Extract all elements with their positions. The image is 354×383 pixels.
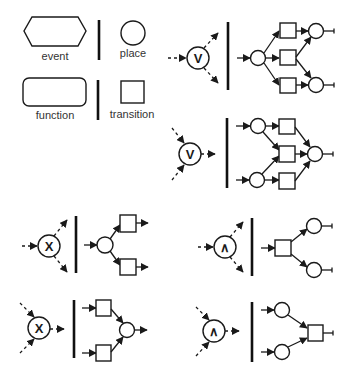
arrow	[295, 127, 310, 147]
arrow	[263, 132, 279, 150]
arrow	[296, 37, 311, 57]
arrow	[288, 338, 307, 347]
transition-icon	[308, 325, 323, 341]
event-label: event	[42, 50, 69, 62]
and-split-mapping: ∧	[198, 218, 332, 278]
xor-split-mapping: X	[22, 215, 148, 275]
arrow	[111, 337, 123, 352]
transition-icon	[279, 146, 295, 162]
or-split-output-down-arrow	[204, 68, 218, 83]
xor-join-input-down-arrow	[20, 339, 34, 353]
and-split-output-up-arrow	[230, 222, 243, 237]
transition-icon	[120, 259, 136, 275]
or-split-output-up-arrow	[204, 33, 218, 48]
or-join-mapping: V	[172, 118, 333, 189]
transition-icon	[96, 345, 111, 361]
or-split-symbol: V	[194, 51, 203, 66]
place-icon	[309, 24, 324, 39]
xor-split-output-down-arrow	[54, 256, 67, 272]
arrow	[288, 315, 307, 328]
legend: event place function transition	[23, 17, 154, 121]
place-icon	[97, 237, 113, 253]
or-join-input-down-arrow	[172, 165, 184, 180]
transition-icon	[275, 240, 291, 256]
place-icon	[309, 78, 324, 93]
place-icon	[275, 345, 290, 360]
transition-icon	[280, 50, 296, 65]
place-shape-icon	[121, 21, 145, 45]
place-icon	[251, 119, 266, 134]
arrow	[295, 161, 310, 181]
arrow	[262, 156, 279, 174]
transition-icon	[96, 300, 111, 316]
and-split-symbol: ∧	[220, 240, 230, 255]
arrow	[291, 254, 307, 267]
xor-join-input-up-arrow	[20, 303, 34, 317]
and-join-input-up-arrow	[196, 307, 209, 320]
transition-shape-icon	[121, 81, 144, 103]
arrow	[291, 229, 307, 242]
or-join-symbol: V	[186, 147, 195, 162]
or-split-mapping: V	[168, 22, 334, 93]
arrow	[264, 63, 279, 85]
arrow	[111, 309, 123, 323]
and-join-input-down-arrow	[196, 342, 209, 356]
transition-icon	[120, 215, 136, 232]
transition-icon	[280, 78, 296, 93]
xor-split-symbol: X	[45, 239, 54, 254]
transition-icon	[280, 23, 296, 38]
place-icon	[308, 147, 323, 162]
xor-join-mapping: X	[20, 300, 147, 361]
and-split-output-down-arrow	[230, 257, 243, 272]
function-label: function	[36, 109, 75, 121]
place-icon	[275, 303, 290, 318]
function-shape-icon	[23, 78, 86, 106]
place-icon	[251, 51, 266, 66]
place-icon	[307, 263, 322, 278]
xor-split-output-up-arrow	[54, 220, 67, 236]
place-icon	[120, 323, 135, 338]
diagram-canvas: event place function transition V	[0, 0, 354, 383]
place-icon	[250, 173, 265, 188]
place-label: place	[120, 47, 146, 59]
or-join-input-up-arrow	[172, 128, 184, 143]
arrow	[110, 225, 120, 239]
place-icon	[307, 219, 322, 234]
transition-label: transition	[110, 108, 155, 120]
transition-icon	[279, 119, 295, 134]
event-shape-icon	[24, 17, 86, 46]
xor-join-symbol: X	[35, 321, 44, 336]
arrow	[110, 251, 120, 265]
transition-icon	[279, 173, 295, 189]
and-join-symbol: ∧	[209, 324, 219, 339]
and-join-mapping: ∧	[196, 302, 333, 362]
arrow	[296, 59, 311, 78]
arrow	[264, 31, 279, 53]
